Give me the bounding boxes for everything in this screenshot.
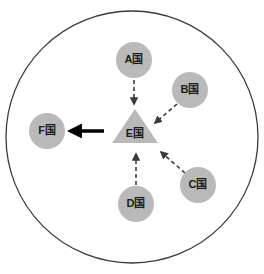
diagram-svg <box>0 0 264 274</box>
node-f <box>29 113 65 149</box>
node-c <box>180 167 216 203</box>
node-b <box>172 72 208 108</box>
node-a <box>116 42 152 78</box>
node-d <box>118 186 154 222</box>
diagram-canvas: A国 B国 C国 D国 E国 F国 <box>0 0 264 274</box>
